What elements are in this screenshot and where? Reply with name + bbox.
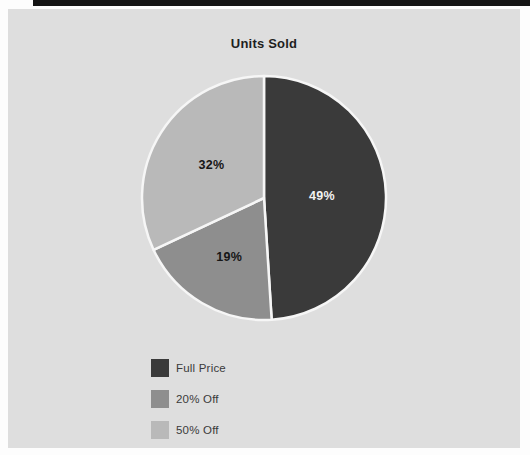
pie-slice-value-label: 19% <box>216 250 242 264</box>
legend-swatch-50-off <box>151 421 169 439</box>
legend-label-50-off: 50% Off <box>176 424 219 436</box>
legend-label-20-off: 20% Off <box>176 393 219 405</box>
legend-item-full-price: Full Price <box>151 359 351 377</box>
legend-item-50-off: 50% Off <box>151 421 351 439</box>
pie-slice-value-label: 49% <box>309 189 335 203</box>
scanned-figure: Units Sold 49%19%32% Full Price 20% Off … <box>0 0 530 455</box>
chart-panel: Units Sold 49%19%32% Full Price 20% Off … <box>8 9 520 448</box>
pie-slice-value-label: 32% <box>199 158 225 172</box>
legend-swatch-20-off <box>151 390 169 408</box>
legend: Full Price 20% Off 50% Off <box>151 359 351 452</box>
legend-swatch-full-price <box>151 359 169 377</box>
legend-item-20-off: 20% Off <box>151 390 351 408</box>
scan-edge-bar <box>33 0 530 6</box>
legend-label-full-price: Full Price <box>176 362 226 374</box>
